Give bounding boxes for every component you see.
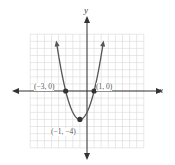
y-axis-label: y <box>84 6 88 15</box>
y-axis-down-arrow-icon <box>84 153 90 160</box>
x-axis-left-arrow-icon <box>12 88 19 94</box>
x-axis-label: x <box>159 86 163 95</box>
point-label-neg3-0: (−3, 0) <box>34 83 54 91</box>
parabola-graph <box>0 0 175 165</box>
vertex-label: (−1, −4) <box>51 128 76 136</box>
y-axis-up-arrow-icon <box>84 16 90 23</box>
point-label-1-0: (1, 0) <box>96 83 112 91</box>
